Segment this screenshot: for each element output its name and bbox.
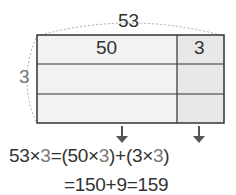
total-width-label: 53 [118,10,139,32]
equation-line-1: 53×3=(50×3)+(3×3) [9,145,236,167]
part-b-label: 3 [194,37,205,59]
arrow-down-icon [193,126,205,143]
height-label: 3 [19,66,30,88]
arrow-down-icon [116,126,128,143]
equation-line-2: =150+9=159 [64,174,236,195]
part-a-label: 50 [96,37,117,59]
